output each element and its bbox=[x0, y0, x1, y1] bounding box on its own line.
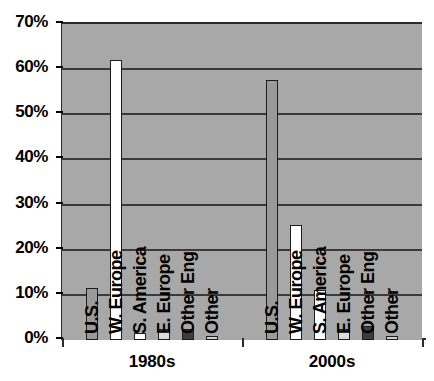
y-axis-tick-mark bbox=[56, 247, 63, 249]
bar-slot: Other bbox=[386, 24, 398, 340]
bar[interactable] bbox=[290, 225, 302, 340]
y-axis-tick-mark bbox=[56, 202, 63, 204]
bar[interactable] bbox=[206, 336, 218, 341]
y-axis-tick-mark bbox=[56, 292, 63, 294]
y-axis-tick-label: 0% bbox=[24, 328, 48, 348]
bar-slot: E. Europe bbox=[158, 24, 170, 340]
x-axis-category-label: 2000s bbox=[309, 352, 355, 372]
bar-chart: U.S.W. EuropeS. AmericaE. EuropeOther En… bbox=[0, 0, 434, 381]
y-axis-tick-label: 30% bbox=[15, 193, 48, 213]
y-axis-tick-label: 50% bbox=[15, 102, 48, 122]
x-axis-origin-tick bbox=[62, 338, 64, 347]
bar-slot: U.S. bbox=[266, 24, 278, 340]
y-axis-tick-mark bbox=[56, 156, 63, 158]
bar-label: S. America bbox=[131, 247, 149, 334]
x-axis-tick-mark bbox=[422, 338, 424, 347]
bar[interactable] bbox=[86, 288, 98, 340]
x-axis-tick-mark bbox=[242, 338, 244, 347]
bar[interactable] bbox=[134, 333, 146, 340]
bar-slot: Other bbox=[206, 24, 218, 340]
bar[interactable] bbox=[362, 326, 374, 340]
bar-label: Other Eng bbox=[359, 251, 377, 334]
bar[interactable] bbox=[338, 329, 350, 340]
y-axis-tick-label: 70% bbox=[15, 12, 48, 32]
bar-slot: Other Eng bbox=[182, 24, 194, 340]
bar-slot: E. Europe bbox=[338, 24, 350, 340]
y-axis-tick-label: 40% bbox=[15, 147, 48, 167]
bar-label: Other Eng bbox=[179, 251, 197, 334]
bar[interactable] bbox=[314, 290, 326, 340]
y-axis-tick-label: 20% bbox=[15, 238, 48, 258]
bar[interactable] bbox=[158, 329, 170, 340]
y-axis-tick-label: 60% bbox=[15, 57, 48, 77]
bar-slot: S. America bbox=[314, 24, 326, 340]
bar-slot: U.S. bbox=[86, 24, 98, 340]
x-axis-category-label: 1980s bbox=[129, 352, 175, 372]
bar-slot: S. America bbox=[134, 24, 146, 340]
bar[interactable] bbox=[386, 336, 398, 341]
bar[interactable] bbox=[110, 60, 122, 340]
y-axis: 0%10%20%30%40%50%60%70% bbox=[0, 0, 56, 381]
y-axis-tick-mark bbox=[56, 66, 63, 68]
y-axis-tick-mark bbox=[56, 111, 63, 113]
bar[interactable] bbox=[266, 80, 278, 340]
bar-slot: W. Europe bbox=[110, 24, 122, 340]
y-axis-tick-label: 10% bbox=[15, 283, 48, 303]
plot-area: U.S.W. EuropeS. AmericaE. EuropeOther En… bbox=[62, 22, 422, 340]
bar[interactable] bbox=[182, 329, 194, 340]
y-axis-tick-mark bbox=[56, 21, 63, 23]
bar-slot: Other Eng bbox=[362, 24, 374, 340]
bar-slot: W. Europe bbox=[290, 24, 302, 340]
